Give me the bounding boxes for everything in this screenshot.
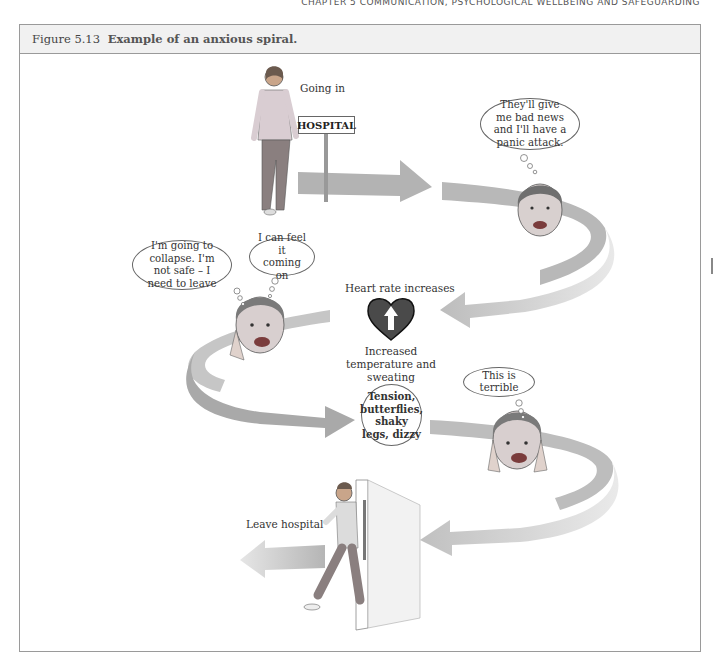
thought-bubble-feel-it: I can feel it coming on: [249, 238, 315, 276]
spiral-arrow-1: [298, 160, 432, 202]
thought-bubble-collapse: I'm going to collapse. I'm not safe – I …: [132, 240, 232, 290]
door-illustration: [356, 480, 420, 630]
spiral-illustration: [0, 0, 716, 666]
worried-face-2: [230, 297, 284, 360]
symptoms-bubble: Tension, butterflies, shaky legs, dizzy: [361, 384, 422, 446]
thought-bubble-bad-news: They'll give me bad news and I'll have a…: [480, 98, 580, 150]
sign-post: [324, 132, 328, 202]
worried-face-1: [518, 184, 562, 236]
worried-face-3: [488, 411, 547, 472]
heart-rate-label: Heart rate increases: [345, 282, 455, 295]
leave-arrow: [240, 540, 325, 578]
hospital-sign: HOSPITAL: [298, 116, 355, 134]
thought-bubble-terrible: This is terrible: [463, 367, 535, 397]
leave-hospital-label: Leave hospital: [246, 518, 323, 531]
going-in-label: Going in: [300, 82, 345, 95]
temperature-label: Increased temperature and sweating: [338, 345, 444, 384]
heart-up-arrow-icon: [368, 299, 414, 340]
woman-walking-figure: [254, 66, 296, 215]
